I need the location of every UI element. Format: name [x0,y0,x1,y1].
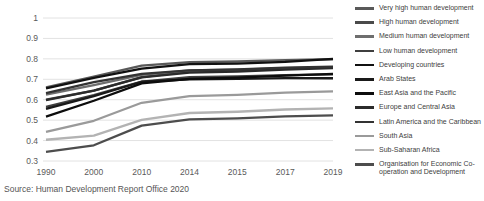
x-axis-tick-label: 2019 [324,167,343,177]
legend-item-label: Europe and Central Asia [379,102,455,111]
y-axis-tick-label: 0.4 [26,136,38,146]
legend-item[interactable]: Very high human development [355,3,484,17]
legend-item-label: Latin America and the Caribbean [379,117,481,126]
legend-swatch-icon [355,92,374,95]
legend-item[interactable]: Low human development [355,46,484,60]
legend-item-label: Medium human development [379,31,469,40]
legend-swatch-icon [355,7,374,10]
x-axis-tick-label: 1990 [37,167,56,177]
legend-swatch-icon [355,149,374,152]
chart-canvas: 0.30.40.50.60.70.80.91 19902000201020142… [0,0,345,181]
legend-swatch-icon [355,135,374,138]
legend-item-label: Arab States [379,74,416,83]
legend-item[interactable]: Developing countries [355,60,484,74]
x-axis-tick-label: 2017 [276,167,295,177]
y-axis-tick-label: 0.7 [26,74,38,84]
legend-swatch-icon [355,50,374,53]
chart-legend: Very high human developmentHigh human de… [355,3,484,181]
y-axis-tick-label: 0.3 [26,156,38,166]
legend-item[interactable]: High human development [355,17,484,31]
legend-item-label: South Asia [379,131,412,140]
legend-item[interactable]: South Asia [355,131,484,145]
series-line [46,108,333,139]
x-axis-tick-labels: 1990200020102014201520172019 [37,167,343,177]
legend-item[interactable]: Arab States [355,74,484,88]
legend-item[interactable]: Sub-Saharan Africa [355,145,484,159]
y-axis-tick-label: 0.5 [26,115,38,125]
legend-item[interactable]: East Asia and the Pacific [355,88,484,102]
x-axis-tick-label: 2010 [132,167,151,177]
y-axis-tick-label: 0.8 [26,54,38,64]
legend-item-label: Very high human development [379,3,474,12]
y-axis-tick-label: 0.9 [26,33,38,43]
legend-swatch-icon [355,78,374,81]
legend-swatch-icon [355,121,374,124]
legend-item-label: Organisation for Economic Co-operation a… [379,159,484,177]
x-axis-tick-label: 2000 [84,167,103,177]
gridlines [43,18,333,161]
y-axis-tick-label: 1 [33,13,38,23]
legend-item[interactable]: Latin America and the Caribbean [355,117,484,131]
y-axis-tick-labels: 0.30.40.50.60.70.80.91 [26,13,38,166]
series-lines [46,59,333,152]
legend-item[interactable]: Organisation for Economic Co-operation a… [355,159,484,181]
legend-swatch-icon [355,163,374,166]
legend-swatch-icon [355,106,374,109]
chart-screenshot: 0.30.40.50.60.70.80.91 19902000201020142… [0,0,484,201]
x-axis-tick-label: 2015 [228,167,247,177]
source-note: Source: Human Development Report Office … [4,184,189,194]
line-chart: 0.30.40.50.60.70.80.91 19902000201020142… [0,0,345,181]
legend-item[interactable]: Medium human development [355,31,484,45]
x-axis-tick-label: 2014 [180,167,199,177]
legend-item-label: East Asia and the Pacific [379,88,456,97]
legend-item-label: Low human development [379,46,457,55]
legend-item-label: Sub-Saharan Africa [379,145,440,154]
legend-swatch-icon [355,21,374,24]
legend-item-label: High human development [379,17,459,26]
legend-item-label: Developing countries [379,60,444,69]
legend-swatch-icon [355,35,374,38]
y-axis-tick-label: 0.6 [26,95,38,105]
legend-swatch-icon [355,64,374,67]
legend-item[interactable]: Europe and Central Asia [355,102,484,116]
